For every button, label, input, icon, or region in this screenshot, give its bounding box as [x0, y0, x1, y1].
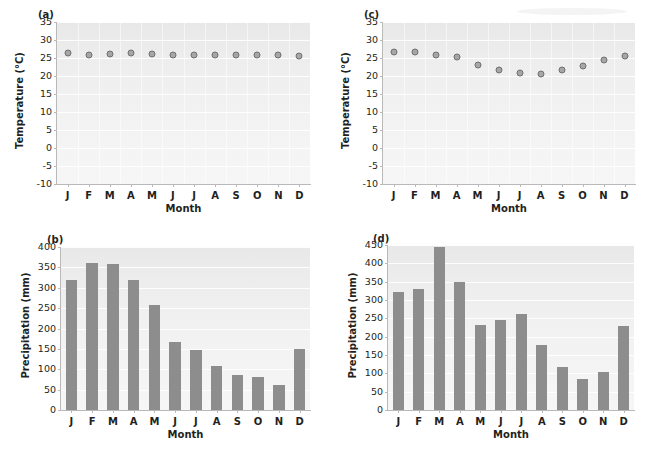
y-axis-tick-label: 250: [365, 314, 383, 324]
y-axis-tick-label: 30: [40, 35, 52, 45]
axis-title-y-d: Precipitation (mm): [347, 261, 358, 391]
gridline-vertical: [551, 22, 552, 184]
y-axis-tick-label: 200: [365, 332, 383, 342]
gridline-vertical: [226, 22, 227, 184]
x-axis-tick-mark: [300, 410, 301, 413]
x-axis-tick-mark: [173, 184, 174, 187]
gridline-vertical: [509, 22, 510, 184]
x-axis-tick-mark: [278, 184, 279, 187]
x-axis-tick-mark: [257, 184, 258, 187]
x-axis-tick-mark: [436, 184, 437, 187]
data-point-marker: [474, 62, 481, 69]
y-axis-tick-label: 50: [371, 387, 383, 397]
gridline: [388, 337, 634, 338]
x-axis-tick-mark: [562, 184, 563, 187]
y-axis-tick-label: 15: [40, 89, 52, 99]
y-axis-tick-label: 250: [38, 303, 56, 313]
x-axis-tick-mark: [89, 184, 90, 187]
y-axis-tick-label: 350: [365, 277, 383, 287]
bar: [252, 377, 264, 410]
bar: [434, 247, 445, 410]
y-axis-tick-label: 15: [366, 89, 378, 99]
y-axis-line: [60, 247, 61, 410]
y-axis-tick-label: 25: [40, 53, 52, 63]
x-axis-tick-label: J: [497, 190, 501, 201]
x-axis-tick-mark: [419, 410, 420, 413]
data-point-marker: [85, 52, 92, 59]
gridline-vertical: [99, 22, 100, 184]
x-axis-line: [387, 410, 635, 411]
x-axis-tick-label: A: [456, 416, 464, 427]
bar: [557, 367, 568, 410]
panel-b-precipitation: (b) Precipitation (mm) Month 05010015020…: [0, 225, 325, 449]
plot-area-a: [57, 22, 310, 184]
data-point-marker: [621, 53, 628, 60]
y-axis-tick-label: 35: [40, 17, 52, 27]
gridline-vertical: [404, 22, 405, 184]
gridline-vertical: [247, 22, 248, 184]
x-axis-tick-mark: [217, 410, 218, 413]
gridline: [61, 329, 310, 330]
x-axis-tick-label: S: [233, 190, 240, 201]
axis-title-y-a: Temperature (°C): [14, 41, 25, 161]
x-axis-tick-label: J: [518, 190, 522, 201]
x-axis-tick-mark: [398, 410, 399, 413]
x-axis-tick-label: N: [274, 190, 282, 201]
x-axis-tick-mark: [394, 184, 395, 187]
x-axis-tick-mark: [439, 410, 440, 413]
x-axis-tick-mark: [258, 410, 259, 413]
x-axis-tick-mark: [521, 410, 522, 413]
x-axis-tick-mark: [457, 184, 458, 187]
bar: [495, 320, 506, 410]
data-point-marker: [453, 53, 460, 60]
y-axis-tick-label: 20: [366, 71, 378, 81]
x-axis-tick-mark: [562, 410, 563, 413]
y-axis-tick-label: -10: [36, 179, 52, 189]
x-axis-tick-label: J: [396, 416, 400, 427]
x-axis-tick-label: A: [538, 416, 546, 427]
gridline: [61, 267, 310, 268]
x-axis-tick-mark: [215, 184, 216, 187]
x-axis-tick-label: M: [105, 190, 115, 201]
y-axis-tick-label: 10: [366, 107, 378, 117]
data-point-marker: [390, 49, 397, 56]
x-axis-tick-label: O: [578, 190, 587, 201]
x-axis-tick-mark: [196, 410, 197, 413]
gridline-vertical: [446, 22, 447, 184]
x-axis-tick-label: N: [275, 416, 283, 427]
x-axis-tick-label: A: [453, 190, 461, 201]
y-axis-tick-label: 35: [366, 17, 378, 27]
x-axis-tick-label: J: [171, 190, 175, 201]
panel-c-temperature: (c) Temperature (°C) Month -10-505101520…: [325, 0, 649, 225]
y-axis-tick-label: 25: [366, 53, 378, 63]
x-axis-tick-mark: [152, 184, 153, 187]
bar: [66, 280, 78, 410]
x-axis-tick-mark: [604, 184, 605, 187]
x-axis-tick-mark: [279, 410, 280, 413]
y-axis-tick-label: 400: [38, 242, 56, 252]
y-axis-tick-label: 100: [365, 369, 383, 379]
gridline-vertical: [488, 22, 489, 184]
x-axis-tick-mark: [92, 410, 93, 413]
bar: [393, 292, 404, 410]
y-axis-tick-label: -5: [369, 161, 378, 171]
data-point-marker: [212, 51, 219, 58]
x-axis-tick-label: O: [578, 416, 587, 427]
x-axis-line: [56, 184, 311, 185]
bar: [107, 264, 119, 410]
gridline: [61, 288, 310, 289]
x-axis-line: [382, 184, 636, 185]
data-point-marker: [191, 51, 198, 58]
x-axis-tick-mark: [625, 184, 626, 187]
bar: [128, 280, 140, 410]
y-axis-tick-label: 20: [40, 71, 52, 81]
bar: [413, 289, 424, 410]
x-axis-tick-label: F: [415, 416, 422, 427]
x-axis-tick-mark: [113, 410, 114, 413]
x-axis-tick-label: O: [254, 416, 263, 427]
x-axis-tick-mark: [236, 184, 237, 187]
x-axis-tick-label: N: [599, 190, 607, 201]
x-axis-tick-label: A: [537, 190, 545, 201]
gridline-vertical: [572, 22, 573, 184]
data-point-marker: [296, 52, 303, 59]
